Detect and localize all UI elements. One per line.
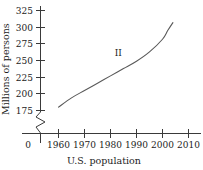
y-tick-label-225: 225 [16,73,33,83]
y-axis-title: Millions of persons [0,23,11,115]
x-tick-label-2000: 2000 [151,140,174,150]
series-ii-curve [59,23,173,108]
x-tick-label-1980: 1980 [99,140,122,150]
series-ii-label: II [115,48,123,58]
y-tick-label-300: 300 [16,23,33,33]
x-axis-title: U.S. population [67,155,141,166]
y-tick-label-250: 250 [16,56,33,66]
y-axis-break-zigzag [36,112,45,133]
x-tick-label-1990: 1990 [125,140,148,150]
x-tick-label-1960: 1960 [47,140,70,150]
x-tick-label-2010: 2010 [177,140,200,150]
chart-figure: 325 300 275 250 225 200 175 Millions of … [0,0,203,170]
y-tick-label-325: 325 [16,6,33,16]
x-tick-label-0: 0 [25,140,31,150]
y-tick-label-175: 175 [16,106,33,116]
x-tick-label-1970: 1970 [73,140,96,150]
y-tick-label-275: 275 [16,39,33,49]
y-tick-label-200: 200 [16,89,33,99]
population-line-chart: 325 300 275 250 225 200 175 Millions of … [0,0,203,170]
